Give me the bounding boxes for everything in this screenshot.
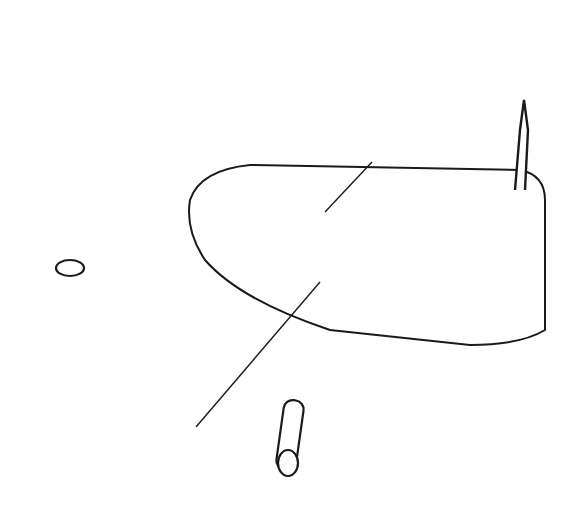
fungal-cortex-layer bbox=[189, 165, 545, 345]
lichen-cross-section-drawing bbox=[0, 0, 570, 520]
upper-cortex-cells bbox=[515, 100, 528, 190]
